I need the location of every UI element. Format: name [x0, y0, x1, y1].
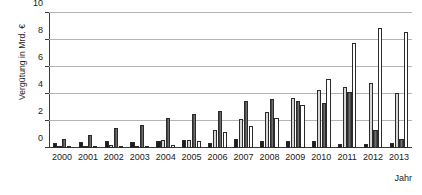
bar	[291, 98, 295, 148]
bar-group	[386, 13, 412, 148]
bar	[208, 143, 212, 148]
bar	[67, 146, 71, 148]
bar	[119, 146, 123, 148]
x-tick-label: 2003	[130, 152, 150, 162]
bar	[399, 139, 403, 148]
bar	[364, 144, 368, 148]
bar-chart: Vergütung in Mrd. € 0246810 200020012002…	[0, 0, 422, 195]
bar	[105, 141, 109, 148]
bar-group	[256, 13, 282, 148]
bar	[79, 142, 83, 148]
bar-group	[101, 13, 127, 148]
bar	[145, 146, 149, 148]
bar	[326, 79, 330, 148]
bar-group	[179, 13, 205, 148]
bar	[109, 145, 113, 148]
y-tick-label: 2	[38, 106, 43, 116]
y-tick-label: 0	[38, 133, 43, 143]
x-tick-label: 2010	[311, 152, 331, 162]
x-tick-label: 2001	[78, 152, 98, 162]
bar	[171, 145, 175, 148]
x-tick-label: 2000	[52, 152, 72, 162]
plot-area: 0246810	[49, 13, 412, 148]
bar	[140, 125, 144, 148]
bar	[88, 135, 92, 148]
x-tick-label: 2002	[104, 152, 124, 162]
bar	[156, 141, 160, 148]
bar	[130, 142, 134, 148]
bar	[213, 130, 217, 148]
bar	[62, 139, 66, 148]
bar	[296, 101, 300, 148]
y-axis-title: Vergütung in Mrd. €	[17, 2, 27, 122]
x-tick-label: 2009	[285, 152, 305, 162]
bar	[53, 143, 57, 148]
x-tick-label: 2005	[182, 152, 202, 162]
bar	[260, 141, 264, 148]
bar	[347, 92, 351, 148]
bar	[187, 140, 191, 148]
bar	[338, 144, 342, 148]
bar	[161, 140, 165, 148]
bar-group	[153, 13, 179, 148]
bar	[244, 101, 248, 148]
bar-group	[308, 13, 334, 148]
bar	[223, 132, 227, 148]
bar-group	[360, 13, 386, 148]
x-tick-label: 2007	[233, 152, 253, 162]
bar	[218, 111, 222, 148]
bar	[300, 105, 304, 148]
x-tick-label: 2004	[156, 152, 176, 162]
bar	[312, 141, 316, 148]
x-tick-label: 2011	[337, 152, 356, 162]
bar-group	[49, 13, 75, 148]
bar-group	[127, 13, 153, 148]
y-tick-label: 6	[38, 52, 43, 62]
bar	[395, 93, 399, 148]
bar	[234, 139, 238, 148]
bar	[369, 83, 373, 148]
bar-group	[231, 13, 257, 148]
x-tick-label: 2013	[389, 152, 409, 162]
bar	[322, 103, 326, 148]
bar	[373, 130, 377, 148]
bar-group	[282, 13, 308, 148]
y-tick-label: 10	[33, 0, 43, 8]
bar	[197, 141, 201, 148]
x-axis-title: Jahr	[394, 173, 412, 183]
bar	[57, 146, 61, 148]
bar	[93, 146, 97, 148]
x-tick-label: 2006	[208, 152, 228, 162]
bar	[286, 141, 290, 148]
bar	[83, 146, 87, 148]
y-tick-label: 4	[38, 79, 43, 89]
bar	[378, 28, 382, 148]
bar-group	[75, 13, 101, 148]
bar	[352, 43, 356, 148]
bar	[239, 119, 243, 148]
y-tick-label: 8	[38, 25, 43, 35]
bar	[166, 118, 170, 148]
bar	[249, 126, 253, 148]
bar	[182, 140, 186, 148]
bar	[343, 87, 347, 148]
x-axis-tick-labels: 2000200120022003200420052006200720082009…	[49, 152, 412, 168]
bar	[404, 32, 408, 148]
bar	[274, 118, 278, 148]
bar	[192, 114, 196, 148]
bar	[265, 112, 269, 148]
bar-group	[334, 13, 360, 148]
bars-layer	[49, 13, 412, 148]
x-tick-label: 2008	[259, 152, 279, 162]
bar	[317, 90, 321, 148]
bar	[270, 99, 274, 148]
bar-group	[205, 13, 231, 148]
bar	[135, 146, 139, 148]
x-tick-label: 2012	[363, 152, 383, 162]
bar	[390, 143, 394, 148]
bar	[114, 128, 118, 148]
